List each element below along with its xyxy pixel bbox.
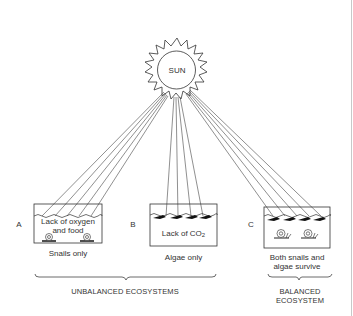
algae-icon (267, 217, 326, 221)
brace-unbalanced (35, 274, 216, 280)
caption-c-1: Both snails and (260, 253, 334, 262)
tank-b-text-sub: 2 (202, 232, 205, 238)
tank-a-text-1: Lack of oxygen (36, 217, 100, 226)
caption-c-2: algae survive (260, 262, 334, 271)
snail-icon (301, 230, 318, 239)
caption-b: Algae only (150, 253, 217, 262)
label-b: B (128, 220, 138, 229)
group-label-unbalanced: UNBALANCED ECOSYSTEMS (60, 287, 190, 296)
snail-icon (274, 230, 291, 239)
page-edge (351, 0, 352, 316)
group-label-balanced-1: BALANCED (270, 287, 330, 296)
label-a: A (14, 220, 24, 229)
label-c: C (246, 220, 256, 229)
brace-balanced (268, 274, 332, 280)
caption-a: Snails only (34, 249, 102, 258)
tank-a-text-2: and food (36, 226, 100, 235)
tank-b-text-main: Lack of CO (162, 229, 202, 238)
light-rays-c (186, 90, 321, 216)
light-rays-a (42, 92, 168, 216)
tank-c (264, 207, 331, 248)
tank-b-text: Lack of CO2 (150, 229, 217, 240)
light-rays-b (166, 97, 203, 216)
group-label-balanced-2: ECOSYSTEM (270, 296, 330, 305)
sun-label: SUN (157, 66, 197, 75)
